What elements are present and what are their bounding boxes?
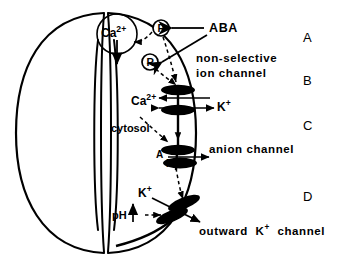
- guard-cell-diagram: Ca2+ R R ABA non-selective ion channel C…: [0, 0, 340, 265]
- potassium-influx-label: K+: [217, 101, 231, 113]
- calcium-store-label: Ca2+: [101, 27, 126, 39]
- anion-channel-icon: [161, 145, 195, 155]
- panel-label-a: A: [303, 31, 312, 44]
- panel-label-c: C: [303, 119, 312, 132]
- non-selective-channel-label-line1: non-selective: [196, 53, 277, 65]
- cytosol-label: cytosol: [111, 123, 150, 134]
- aba-label: ABA: [209, 22, 238, 35]
- non-selective-channel-label-line2: ion channel: [196, 68, 267, 80]
- panel-label-b: B: [303, 74, 312, 87]
- receptor-1-label: R: [158, 23, 166, 34]
- cytosolic-calcium-label: Ca2+: [131, 95, 156, 107]
- potassium-efflux-label: K+: [138, 187, 152, 199]
- receptor-2-label: R: [147, 57, 155, 68]
- proton-pump-label: P: [166, 159, 173, 169]
- outward-k-channel-label: outward K+ channel: [199, 226, 325, 238]
- panel-label-d: D: [303, 190, 312, 203]
- ph-label: pH: [112, 210, 127, 221]
- anion-channel-label: anion channel: [209, 144, 294, 156]
- anion-label: A-: [156, 150, 166, 160]
